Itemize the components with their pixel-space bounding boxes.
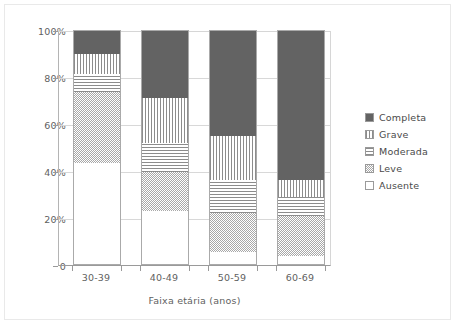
segment-ausente[interactable] <box>141 211 189 265</box>
x-axis-tick-label-50-59: 50-59 <box>197 272 267 283</box>
y-axis-tick-mark <box>53 266 58 267</box>
x-axis-tick-mark <box>121 266 122 271</box>
segment-ausente[interactable] <box>209 252 257 265</box>
x-axis-tick-mark <box>325 266 326 271</box>
legend-label-ausente: Ausente <box>379 180 419 191</box>
segment-moderada[interactable] <box>141 143 189 172</box>
bar-30-39[interactable] <box>73 30 121 265</box>
legend-swatch-completa-icon <box>365 113 374 122</box>
x-axis-tick-mark <box>257 266 258 271</box>
segment-grave[interactable] <box>209 136 257 181</box>
segment-leve[interactable] <box>209 213 257 252</box>
legend-label-moderada: Moderada <box>379 146 428 157</box>
legend-swatch-ausente-icon <box>365 181 374 190</box>
legend-label-completa: Completa <box>379 112 426 123</box>
legend-item-leve[interactable]: Leve <box>365 161 451 176</box>
legend-swatch-grave-icon <box>365 130 374 139</box>
segment-leve[interactable] <box>73 92 121 163</box>
segment-ausente[interactable] <box>73 163 121 265</box>
x-axis-tick-mark <box>72 266 73 271</box>
segment-grave[interactable] <box>73 54 121 74</box>
segment-ausente[interactable] <box>277 256 325 265</box>
bar-50-59[interactable] <box>209 30 257 265</box>
legend: Completa Grave Moderada Leve Ausente <box>365 110 451 195</box>
segment-leve[interactable] <box>277 216 325 256</box>
x-axis-tick-mark <box>140 266 141 271</box>
segment-completa[interactable] <box>209 30 257 136</box>
chart-figure: 100% 80% 60% 40% 20% 0 <box>0 0 455 328</box>
x-axis-tick-label-40-49: 40-49 <box>129 272 199 283</box>
x-axis-tick-label-60-69: 60-69 <box>265 272 335 283</box>
segment-moderada[interactable] <box>277 197 325 216</box>
x-axis-tick-label-30-39: 30-39 <box>61 272 131 283</box>
legend-item-ausente[interactable]: Ausente <box>365 178 451 193</box>
x-axis-title: Faixa etária (anos) <box>58 295 331 306</box>
segment-completa[interactable] <box>73 30 121 54</box>
bar-60-69[interactable] <box>277 30 325 265</box>
legend-swatch-moderada-icon <box>365 147 374 156</box>
x-axis-tick-mark <box>208 266 209 271</box>
x-axis-tick-mark <box>189 266 190 271</box>
legend-item-completa[interactable]: Completa <box>365 110 451 125</box>
segment-completa[interactable] <box>141 30 189 98</box>
legend-swatch-leve-icon <box>365 164 374 173</box>
legend-label-grave: Grave <box>379 129 409 140</box>
segment-leve[interactable] <box>141 172 189 211</box>
legend-item-moderada[interactable]: Moderada <box>365 144 451 159</box>
legend-label-leve: Leve <box>379 163 402 174</box>
x-axis-tick-mark <box>276 266 277 271</box>
legend-item-grave[interactable]: Grave <box>365 127 451 142</box>
segment-grave[interactable] <box>277 180 325 197</box>
segment-moderada[interactable] <box>73 74 121 93</box>
segment-completa[interactable] <box>277 30 325 180</box>
segment-moderada[interactable] <box>209 180 257 213</box>
plot-area <box>58 31 331 266</box>
bar-40-49[interactable] <box>141 30 189 265</box>
segment-grave[interactable] <box>141 98 189 143</box>
